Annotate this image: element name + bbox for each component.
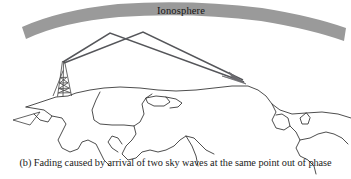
figure-caption: (b) Fading caused by arrival of two sky …: [0, 157, 351, 168]
transmitter-antenna-tower: [53, 61, 72, 97]
sky-wave-path-2: [64, 32, 243, 80]
propagation-diagram: [0, 0, 351, 179]
figure-container: Ionosphere (b) Fading caused by arrival …: [0, 0, 351, 179]
ionosphere-label: Ionosphere: [139, 5, 223, 16]
ground-wave-marker: [13, 112, 40, 125]
reception-arrowhead-icon: [222, 72, 246, 84]
sky-wave-path-1: [63, 33, 244, 82]
